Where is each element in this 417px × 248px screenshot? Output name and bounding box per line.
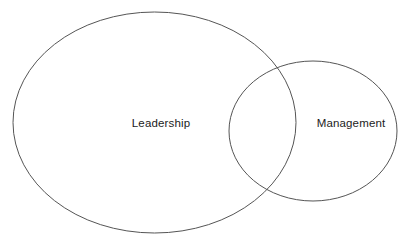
management-ellipse [229,61,397,201]
management-label: Management [317,118,386,130]
venn-diagram: Leadership Management [0,0,417,248]
leadership-label: Leadership [132,118,190,130]
